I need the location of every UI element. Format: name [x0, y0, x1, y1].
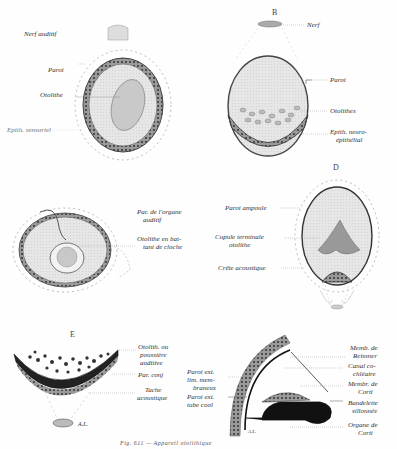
label-artist-f: A.L. — [248, 428, 256, 436]
label-auditif: auditif — [143, 216, 161, 224]
label-organe-corti: Organe de — [348, 421, 377, 429]
label-corti-1: Corti — [358, 388, 373, 396]
label-otolithes-b: Otolithes — [330, 107, 356, 115]
label-braneux: braneux — [193, 384, 216, 392]
panel-e-drawing — [14, 350, 136, 427]
label-otolithe-a: Otolithe — [40, 91, 63, 99]
panel-letter-d: D — [333, 163, 339, 172]
label-tant-cloche: tant de cloche — [143, 243, 182, 251]
label-sillonnee: sillonnée — [352, 407, 377, 415]
label-otolithe-d: otolithe — [229, 241, 250, 249]
label-poussiere: poussière — [140, 351, 167, 359]
label-bandelette: Bandelette — [348, 399, 378, 407]
label-epithelial: épithélial — [336, 136, 362, 144]
label-epith-sensoriel: Epith. sensoriel — [7, 126, 51, 134]
label-tache: Tache — [145, 386, 161, 394]
label-cupule-terminale: Cupule terminale — [215, 233, 264, 241]
label-paroi-organe: Par. de l'organe — [137, 208, 182, 216]
panel-d-drawing — [281, 180, 379, 309]
label-paroi-ext-2: Paroi ext. — [187, 393, 214, 401]
label-acoustique: acoustique — [137, 394, 167, 402]
label-tube-cool: tube cool — [187, 401, 213, 409]
label-membr-corti: Membr. de — [348, 380, 378, 388]
label-paroi-ampoule: Paroi ampoule — [225, 204, 267, 212]
label-memb-reissner: Memb. de — [350, 344, 378, 352]
panel-f-drawing — [228, 335, 345, 436]
label-corti-2: Corti — [358, 429, 373, 437]
label-otolith-ou: Otolith. ou — [138, 343, 168, 351]
label-paroi-b: Paroi — [330, 76, 346, 84]
label-lim-membraneux: lim. mem- — [187, 376, 215, 384]
label-chleaire: chléaire — [353, 370, 376, 378]
label-canal-cochleaire: Canal co- — [348, 362, 376, 370]
label-nerf-auditif: Nerf auditif — [24, 30, 56, 38]
label-reissner: Reissner — [353, 352, 377, 360]
label-paroi-ext-1: Paroi ext. — [187, 368, 214, 376]
panel-c-drawing — [13, 208, 136, 292]
figure-canvas: Nerf auditif Paroi Otolithe Epith. senso… — [0, 0, 397, 449]
figure-caption: Fig. 611 — Appareil otolithique — [120, 440, 212, 446]
label-par-conj: Par. conj — [138, 371, 163, 379]
label-otolithe-battant: Otolithe en bat- — [137, 235, 181, 243]
panel-letter-b: B — [272, 8, 277, 17]
label-auditive: auditive — [140, 359, 163, 367]
panel-letter-e: E — [70, 330, 75, 339]
label-crete-acoustique: Crête acoustique — [218, 264, 266, 272]
label-nerf-b: Nerf — [307, 21, 319, 29]
label-paroi-a: Paroi — [48, 66, 64, 74]
label-epith-neuro: Epith. neuro- — [330, 128, 367, 136]
label-artist-e: A.L. — [78, 420, 88, 428]
panel-b-drawing — [228, 21, 328, 156]
